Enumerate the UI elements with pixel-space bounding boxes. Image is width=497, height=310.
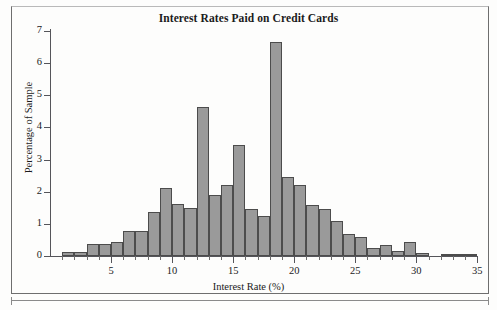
x-tick-label: 30 [401, 265, 431, 276]
x-minor-tick [209, 256, 210, 260]
x-minor-tick [367, 256, 368, 260]
x-minor-tick [258, 256, 259, 260]
histogram-bar [416, 253, 428, 256]
x-minor-tick [184, 256, 185, 260]
x-minor-tick [429, 256, 430, 260]
x-tick [294, 256, 295, 263]
histogram-bar [135, 231, 147, 256]
y-tick [44, 224, 50, 225]
y-tick-label: 0 [20, 250, 42, 260]
x-tick-label: 5 [96, 265, 126, 276]
x-axis-title: Interest Rate (%) [0, 281, 497, 292]
y-tick [44, 160, 50, 161]
histogram-bar [453, 254, 465, 256]
x-tick-label: 20 [279, 265, 309, 276]
x-minor-tick [465, 256, 466, 260]
histogram-bar [294, 185, 306, 256]
x-tick [111, 256, 112, 263]
histogram-bar [148, 212, 160, 256]
y-axis-title: Percentage of Sample [23, 48, 34, 208]
x-minor-tick [74, 256, 75, 260]
x-tick [355, 256, 356, 263]
histogram-bar [160, 188, 172, 256]
x-minor-tick [343, 256, 344, 260]
x-tick-label: 35 [462, 265, 492, 276]
histogram-bar [465, 254, 477, 256]
histogram-bar [233, 145, 245, 256]
x-minor-tick [135, 256, 136, 260]
histogram-bar [197, 107, 209, 256]
x-minor-tick [331, 256, 332, 260]
y-tick [44, 95, 50, 96]
histogram-bar [355, 237, 367, 256]
histogram-bar [245, 209, 257, 256]
histogram-bar [184, 208, 196, 256]
x-minor-tick [62, 256, 63, 260]
histogram-bar [74, 252, 86, 256]
y-tick [44, 31, 50, 32]
x-tick [477, 256, 478, 263]
y-tick [44, 127, 50, 128]
x-minor-tick [306, 256, 307, 260]
histogram-bar [343, 234, 355, 256]
x-minor-tick [160, 256, 161, 260]
figure-container: Interest Rates Paid on Credit Cards 0123… [0, 0, 497, 310]
plot-area: 01234567 5101520253035 Percentage of Sam… [0, 0, 497, 310]
x-tick-label: 25 [340, 265, 370, 276]
x-minor-tick [319, 256, 320, 260]
x-minor-tick [99, 256, 100, 260]
histogram-bar [319, 209, 331, 256]
histogram-bar [270, 42, 282, 256]
histogram-bar [221, 185, 233, 256]
x-minor-tick [392, 256, 393, 260]
x-tick [172, 256, 173, 263]
x-axis-line [50, 256, 478, 257]
x-minor-tick [282, 256, 283, 260]
x-tick-label: 10 [157, 265, 187, 276]
x-minor-tick [404, 256, 405, 260]
histogram-bar [123, 231, 135, 256]
histogram-bar [62, 252, 74, 256]
histogram-bar [209, 195, 221, 256]
x-tick [233, 256, 234, 263]
x-minor-tick [148, 256, 149, 260]
x-minor-tick [87, 256, 88, 260]
y-axis-line [50, 29, 51, 257]
histogram-bar [99, 244, 111, 256]
y-tick [44, 192, 50, 193]
histogram-bar [392, 251, 404, 256]
histogram-bar [441, 254, 453, 256]
histogram-bar [331, 221, 343, 256]
histogram-bar [87, 244, 99, 256]
histogram-bar [367, 248, 379, 256]
histogram-bar [306, 205, 318, 256]
histogram-bar [404, 242, 416, 256]
y-tick-label: 1 [20, 218, 42, 228]
histogram-bar [282, 177, 294, 256]
x-minor-tick [453, 256, 454, 260]
x-minor-tick [123, 256, 124, 260]
y-tick [44, 63, 50, 64]
x-tick-label: 15 [218, 265, 248, 276]
y-tick-label: 7 [20, 25, 42, 35]
histogram-bar [172, 204, 184, 256]
histogram-bar [258, 216, 270, 256]
x-minor-tick [221, 256, 222, 260]
x-minor-tick [270, 256, 271, 260]
y-tick [44, 256, 50, 257]
histogram-bar [111, 242, 123, 256]
x-minor-tick [197, 256, 198, 260]
x-minor-tick [245, 256, 246, 260]
x-minor-tick [380, 256, 381, 260]
x-tick [416, 256, 417, 263]
histogram-bar [380, 245, 392, 256]
x-minor-tick [441, 256, 442, 260]
